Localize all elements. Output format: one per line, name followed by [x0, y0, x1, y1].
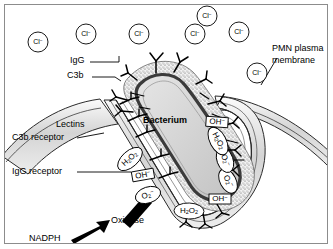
label-c3b: C3b	[67, 71, 84, 80]
label-nadph: NADPH	[29, 234, 61, 243]
chloride-ion-label: Cl−	[197, 12, 217, 19]
chloride-ion-label: Cl−	[229, 28, 249, 35]
chloride-ion-label: Cl−	[247, 69, 267, 76]
label-oxidase: Oxidase	[111, 216, 144, 225]
label-pmn-plasma-membrane-line2: membrane	[272, 56, 315, 65]
igg-spike-right-1	[196, 71, 212, 84]
species-label-h2o2: H2O2	[173, 207, 205, 215]
label-bacterium: Bacterium	[143, 116, 187, 125]
label-pmn-plasma-membrane-line1: PMN plasma	[272, 44, 324, 53]
species-label-oh: OH−	[206, 195, 234, 203]
phagocytosis-diagram: Cl− Cl− Cl− Cl− Cl− Cl− Cl− H2O2 OH− O2−…	[0, 0, 333, 249]
label-igg-receptor: IgG receptor	[12, 167, 62, 176]
label-igg: IgG	[70, 56, 85, 65]
chloride-ion-label: Cl−	[28, 38, 48, 45]
label-lectins: Lectins	[56, 120, 85, 129]
nadph-arrow	[71, 220, 110, 244]
chloride-ion-label: Cl−	[185, 30, 205, 37]
label-c3b-receptor: C3b receptor	[12, 133, 64, 142]
chloride-ion-label: Cl−	[129, 30, 149, 37]
leader-c3b-tick	[115, 77, 121, 81]
chloride-ion-label: Cl−	[76, 30, 96, 37]
